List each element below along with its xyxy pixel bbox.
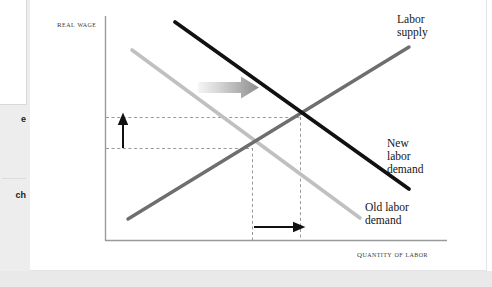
equilibrium-guide-lines xyxy=(106,117,301,240)
demand-shift-arrow xyxy=(198,77,259,99)
old-labor-demand-curve xyxy=(132,50,360,218)
new-labor-demand-label: New labor demand xyxy=(387,137,423,176)
bottom-strip xyxy=(0,271,492,287)
figure-canvas xyxy=(0,0,492,271)
labor-supply-curve xyxy=(128,47,409,219)
old-labor-demand-label: Old labor demand xyxy=(365,201,409,227)
labor-supply-label: Labor supply xyxy=(397,13,428,39)
y-axis-label: Real wage xyxy=(57,18,96,30)
screenshot-root: e ch xyxy=(0,0,492,287)
x-axis-label: Quantity of labor xyxy=(357,248,428,260)
supply-demand-figure: Real wage Quantity of labor Labor supply… xyxy=(0,0,492,271)
